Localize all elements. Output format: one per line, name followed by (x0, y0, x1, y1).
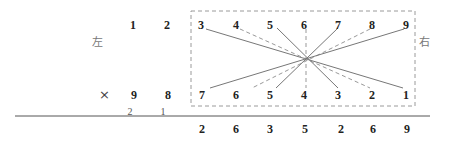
cross-line-8-6 (252, 29, 370, 88)
result-digit: 2 (338, 122, 344, 136)
carry-digit: 1 (161, 106, 166, 117)
top-digit: 1 (130, 18, 136, 32)
bottom-digit: 5 (267, 88, 273, 102)
bottom-digit: 8 (165, 88, 171, 102)
top-digit: 6 (301, 18, 307, 32)
bottom-digit: 7 (199, 88, 205, 102)
cross-line-4-2 (240, 29, 370, 88)
bottom-digit: 6 (233, 88, 239, 102)
right-label: 右 (419, 35, 430, 49)
result-digit: 2 (199, 122, 205, 136)
result-digit: 3 (267, 122, 273, 136)
top-digit: 2 (164, 18, 170, 32)
left-label: 左 (92, 36, 103, 49)
cross-lines (206, 28, 404, 88)
top-digit: 4 (233, 18, 239, 32)
bottom-digit: 3 (335, 88, 341, 102)
bottom-digit: 1 (403, 88, 409, 102)
top-digit: 9 (403, 18, 409, 32)
result-digit: 9 (404, 122, 410, 136)
carry-digit: 2 (128, 106, 133, 117)
top-digit: 8 (369, 18, 375, 32)
carry-digits: 21 (128, 106, 166, 117)
bottom-digit: 2 (369, 88, 375, 102)
bottom-digit: 9 (131, 88, 137, 102)
top-digit: 7 (335, 18, 341, 32)
multiply-sign: × (99, 87, 110, 102)
bottom-row-digits: 987654321 (131, 88, 409, 102)
result-digit: 6 (233, 122, 239, 136)
result-row-digits: 2635269 (199, 122, 410, 136)
result-digit: 6 (370, 122, 376, 136)
cross-multiplication-diagram: 左 右 × 123456789 987654321 21 2635269 (0, 0, 450, 143)
top-digit: 3 (198, 18, 204, 32)
result-digit: 5 (302, 122, 308, 136)
bottom-digit: 4 (301, 88, 307, 102)
top-digit: 5 (267, 18, 273, 32)
